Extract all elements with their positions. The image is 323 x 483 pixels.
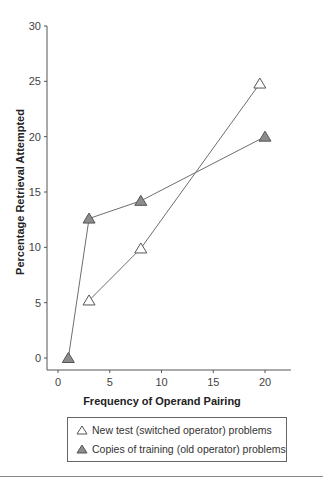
y-axis-title: Percentage Retrieval Attempted — [14, 109, 26, 275]
filled-triangle-marker — [135, 195, 147, 205]
open-triangle-icon — [76, 425, 88, 435]
legend: New test (switched operator) problems Co… — [67, 417, 287, 462]
series-line — [89, 84, 260, 301]
filled-triangle-icon — [76, 444, 88, 454]
x-axis-title: Frequency of Operand Pairing — [83, 395, 241, 407]
legend-label: Copies of training (old operator) proble… — [92, 443, 286, 455]
filled-triangle-marker — [62, 353, 74, 363]
x-tick-label: 15 — [207, 376, 219, 388]
x-tick-label: 0 — [55, 376, 61, 388]
y-tick-label: 10 — [29, 241, 41, 253]
y-tick-label: 25 — [29, 75, 41, 87]
y-tick-label: 30 — [29, 20, 41, 32]
legend-item-copies-training: Copies of training (old operator) proble… — [76, 443, 286, 455]
series-group — [62, 78, 271, 362]
legend-item-new-test: New test (switched operator) problems — [76, 424, 272, 436]
series-line — [68, 137, 265, 358]
x-tick-label: 10 — [155, 376, 167, 388]
open-triangle-marker — [254, 78, 266, 88]
filled-triangle-marker — [83, 213, 95, 223]
legend-label: New test (switched operator) problems — [92, 424, 272, 436]
x-tick-label: 20 — [259, 376, 271, 388]
y-tick-label: 0 — [35, 352, 41, 364]
y-tick-label: 20 — [29, 131, 41, 143]
open-triangle-marker — [135, 243, 147, 253]
filled-triangle-marker — [259, 131, 271, 141]
x-tick-label: 5 — [107, 376, 113, 388]
line-chart: 05101520253005101520 Percentage Retrieva… — [0, 0, 323, 483]
y-tick-label: 5 — [35, 297, 41, 309]
axes: 05101520253005101520 — [29, 20, 291, 388]
y-tick-label: 15 — [29, 186, 41, 198]
divider — [0, 476, 323, 477]
